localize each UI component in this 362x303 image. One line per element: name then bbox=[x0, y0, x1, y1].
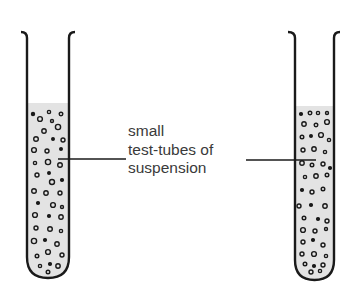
tube-label: small test-tubes of suspension bbox=[128, 122, 213, 178]
left-tube-liquid bbox=[28, 103, 68, 277]
label-line-3: suspension bbox=[128, 159, 213, 178]
label-line-2: test-tubes of bbox=[128, 141, 213, 160]
label-line-1: small bbox=[128, 122, 213, 141]
right-test-tube bbox=[288, 32, 340, 280]
left-test-tube bbox=[21, 32, 75, 278]
